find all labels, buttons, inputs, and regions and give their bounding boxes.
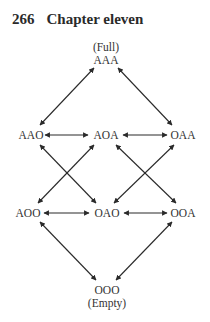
edge-aoa-ooa [116, 145, 176, 203]
node-ooo: OOO [95, 284, 120, 296]
edges [38, 68, 176, 280]
edge-aoo-ooo [40, 222, 96, 280]
node-aoa: AOA [94, 129, 120, 141]
state-lattice-diagram: (Full) AAA AAO AOA OAA AOO OAO OOA OOO (… [0, 0, 210, 322]
node-aao: AAO [19, 129, 44, 141]
node-ooa: OOA [171, 207, 197, 219]
edge-aaa-oaa [118, 68, 172, 125]
edge-aaa-aao [40, 68, 94, 125]
node-oao: OAO [95, 207, 120, 219]
edge-ooa-ooo [116, 222, 172, 280]
top-caption: (Full) [93, 41, 119, 54]
edge-aoa-aoo [38, 145, 94, 203]
bottom-caption: (Empty) [88, 297, 126, 310]
node-aaa: AAA [94, 54, 120, 66]
node-aoo: AOO [16, 207, 41, 219]
edge-oaa-oao [114, 145, 174, 203]
edge-aao-oao [40, 145, 96, 203]
node-oaa: OAA [171, 129, 197, 141]
